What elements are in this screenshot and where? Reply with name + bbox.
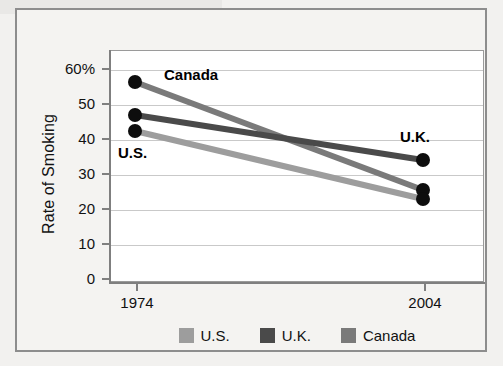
legend-item-canada[interactable]: Canada	[341, 327, 416, 344]
x-tick-mark-1974	[136, 283, 138, 291]
legend-label-canada: Canada	[363, 327, 416, 344]
y-axis-line	[109, 50, 111, 283]
legend-item-uk[interactable]: U.K.	[260, 327, 311, 344]
annotation-canada: Canada	[164, 66, 218, 83]
y-tick-label-40: 40	[17, 130, 99, 147]
legend-label-us: U.S.	[201, 327, 230, 344]
figure-frame: 60% 50 40 30 20 10 0 Rate of Smoking 197…	[15, 8, 487, 352]
annotation-us: U.S.	[118, 144, 147, 161]
y-tick-label-10: 10	[17, 235, 99, 252]
x-tick-label-2004: 2004	[408, 294, 441, 311]
y-axis-title: Rate of Smoking	[40, 79, 58, 269]
page-canvas: 60% 50 40 30 20 10 0 Rate of Smoking 197…	[0, 0, 503, 366]
y-tick-label-60: 60%	[17, 60, 99, 77]
legend-swatch-canada	[341, 328, 356, 343]
annotation-uk: U.K.	[400, 128, 430, 145]
y-tick-mark-10	[102, 243, 110, 245]
y-tick-label-0: 0	[17, 270, 99, 287]
x-axis-line	[109, 282, 485, 284]
gridline-20	[111, 210, 483, 211]
x-tick-label-1974: 1974	[120, 294, 153, 311]
legend-swatch-us	[179, 328, 194, 343]
y-tick-mark-0	[102, 278, 110, 280]
gridline-50	[111, 105, 483, 106]
y-tick-label-30: 30	[17, 165, 99, 182]
y-tick-label-20: 20	[17, 200, 99, 217]
y-tick-mark-50	[102, 103, 110, 105]
x-tick-mark-2004	[424, 283, 426, 291]
y-tick-mark-30	[102, 173, 110, 175]
gridline-30	[111, 175, 483, 176]
y-tick-mark-60	[102, 68, 110, 70]
legend-label-uk: U.K.	[282, 327, 311, 344]
y-tick-mark-40	[102, 138, 110, 140]
gridline-10	[111, 245, 483, 246]
chart-legend: U.S. U.K. Canada	[110, 322, 484, 348]
legend-item-us[interactable]: U.S.	[179, 327, 230, 344]
plot-area	[110, 50, 484, 282]
y-tick-mark-20	[102, 208, 110, 210]
y-tick-label-50: 50	[17, 95, 99, 112]
legend-swatch-uk	[260, 328, 275, 343]
